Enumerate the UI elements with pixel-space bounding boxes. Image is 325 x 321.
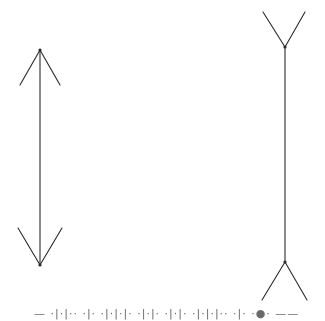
right-bottom-fin-right [285,262,307,300]
right-top-vertex-dot [283,45,286,48]
figure-caption-truncated: — ·|·|·· ·|· ·|·|·|· ·|·|· ·|·|· ·|·|·|·… [34,307,304,321]
left-top-fin-right [40,50,60,85]
left-arrow-figure [18,48,62,266]
right-top-fin-left [263,12,285,47]
left-bottom-fin-right [40,228,62,265]
left-bottom-fin-left [18,228,40,265]
left-bottom-vertex-dot [38,263,41,266]
right-bottom-fin-left [262,262,285,300]
right-fin-figure [262,12,307,300]
right-bottom-vertex-dot [283,260,286,263]
right-top-fin-right [285,12,305,47]
left-top-fin-left [20,50,40,85]
left-top-vertex-dot [38,48,41,51]
